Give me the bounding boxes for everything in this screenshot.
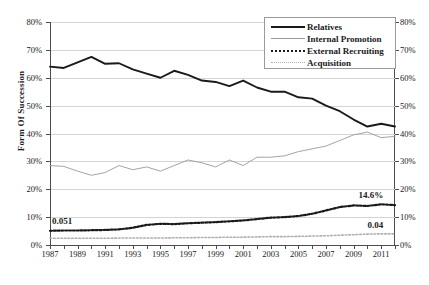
x-axis-tick-mark xyxy=(312,245,313,249)
y-axis-tick-mark xyxy=(46,161,50,162)
x-axis-tick-mark xyxy=(395,245,396,249)
y-axis-tick-label-right: 20% xyxy=(400,185,429,194)
legend-swatch-acquisition xyxy=(269,58,307,68)
y-axis-tick-label-left: 10% xyxy=(8,213,42,222)
x-axis-tick-mark xyxy=(257,245,258,249)
legend-item-acquisition: Acquisition xyxy=(269,57,391,69)
x-axis-tick-mark xyxy=(91,245,92,249)
y-axis-tick-mark xyxy=(46,50,50,51)
y-axis-tick-label-right: 40% xyxy=(400,130,429,139)
y-axis-tick-mark xyxy=(46,189,50,190)
x-axis-tick-mark xyxy=(229,245,230,249)
y-axis-tick-mark xyxy=(395,78,399,79)
annotation-0051: 0.051 xyxy=(52,217,72,226)
y-axis-tick-mark xyxy=(46,106,50,107)
series-line-internal-promotion xyxy=(50,132,395,175)
x-axis-tick-mark xyxy=(147,245,148,249)
annotation-004: 0.04 xyxy=(347,221,383,230)
x-axis-tick-mark xyxy=(367,245,368,249)
x-axis-tick-mark xyxy=(119,245,120,249)
y-axis-tick-mark xyxy=(46,78,50,79)
legend-swatch-internal-promotion xyxy=(269,34,307,44)
y-axis-tick-label-left: 20% xyxy=(8,185,42,194)
y-axis-tick-mark xyxy=(395,189,399,190)
x-axis-tick-mark xyxy=(64,245,65,249)
y-axis-tick-label-right: 0% xyxy=(400,241,429,250)
x-axis-tick-mark xyxy=(340,245,341,249)
gridline xyxy=(51,245,396,246)
x-axis-tick-mark xyxy=(202,245,203,249)
legend-label-internal-promotion: Internal Promotion xyxy=(307,35,382,44)
legend-swatch-relatives xyxy=(269,22,307,32)
series-line-acquisition xyxy=(50,234,395,238)
legend-label-relatives: Relatives xyxy=(307,23,342,32)
y-axis-tick-label-left: 80% xyxy=(8,18,42,27)
x-axis-tick-label: 2011 xyxy=(361,250,401,259)
y-axis-tick-mark xyxy=(46,134,50,135)
legend-item-external-recruiting: External Recruiting xyxy=(269,45,391,57)
chart-container: Form Of Succession 0%0%10%10%20%20%30%30… xyxy=(0,0,429,285)
y-axis-tick-mark xyxy=(395,106,399,107)
y-axis-tick-label-right: 80% xyxy=(400,18,429,27)
legend-label-acquisition: Acquisition xyxy=(307,59,351,68)
legend-label-external-recruiting: External Recruiting xyxy=(307,47,384,56)
legend-item-internal-promotion: Internal Promotion xyxy=(269,33,391,45)
y-axis-tick-label-right: 30% xyxy=(400,157,429,166)
y-axis-tick-label-left: 50% xyxy=(8,102,42,111)
y-axis-tick-mark xyxy=(395,134,399,135)
y-axis-tick-mark xyxy=(395,217,399,218)
y-axis-tick-label-left: 40% xyxy=(8,130,42,139)
chart-legend: Relatives Internal Promotion External Re… xyxy=(264,17,396,69)
y-axis-tick-mark xyxy=(46,217,50,218)
y-axis-tick-label-right: 70% xyxy=(400,46,429,55)
x-axis-tick-mark xyxy=(174,245,175,249)
y-axis-title: Form Of Succession xyxy=(16,51,26,171)
y-axis-tick-label-left: 30% xyxy=(8,157,42,166)
y-axis-tick-label-right: 60% xyxy=(400,74,429,83)
y-axis-tick-mark xyxy=(395,161,399,162)
annotation-146: 14.6% xyxy=(347,191,383,200)
series-line-external-recruiting xyxy=(50,204,395,230)
x-axis-tick-mark xyxy=(285,245,286,249)
y-axis-tick-label-left: 60% xyxy=(8,74,42,83)
y-axis-tick-label-left: 70% xyxy=(8,46,42,55)
legend-swatch-external-recruiting xyxy=(269,46,307,56)
y-axis-tick-label-right: 10% xyxy=(400,213,429,222)
y-axis-tick-label-left: 0% xyxy=(8,241,42,250)
y-axis-tick-mark xyxy=(46,22,50,23)
y-axis-tick-label-right: 50% xyxy=(400,102,429,111)
legend-item-relatives: Relatives xyxy=(269,21,391,33)
